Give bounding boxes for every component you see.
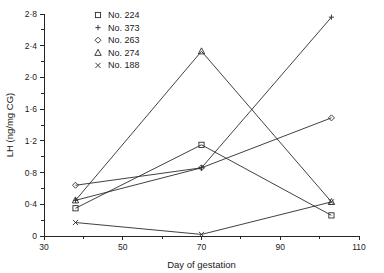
series-no-263 <box>73 115 335 188</box>
legend-marker <box>95 63 100 68</box>
legend-marker <box>95 49 101 55</box>
legend-item-no-263: No. 263 <box>95 35 140 45</box>
y-axis-tick-label: 2·4 <box>25 41 38 51</box>
y-axis-tick-label: 0 <box>32 231 37 241</box>
legend-item-no-274: No. 274 <box>95 48 140 58</box>
legend-item-no-373: No. 373 <box>95 23 139 33</box>
series-polyline <box>76 118 332 185</box>
x-axis-tick-label: 70 <box>197 242 207 252</box>
legend-item-no-188: No. 188 <box>95 60 139 70</box>
legend-label: No. 188 <box>108 60 140 70</box>
x-axis-tick-label: 30 <box>39 242 49 252</box>
x-axis-title: Day of gestation <box>167 259 236 270</box>
y-axis-tick-label: 1·6 <box>25 104 38 114</box>
x-axis-tick-label: 110 <box>352 242 366 252</box>
marker-triangle <box>95 49 101 55</box>
legend-marker <box>95 37 101 43</box>
legend-marker <box>95 12 100 17</box>
series-polyline <box>76 202 332 235</box>
x-axis: 30507090110 <box>39 236 366 252</box>
y-axis-tick-label: 2·8 <box>25 9 38 19</box>
legend-label: No. 373 <box>108 23 140 33</box>
x-axis-tick-label: 90 <box>276 242 286 252</box>
x-axis-tick-label: 50 <box>118 242 128 252</box>
marker-diamond <box>95 37 101 43</box>
y-axis-tick-label: 1·2 <box>25 136 38 146</box>
legend-label: No. 263 <box>108 35 140 45</box>
series-polyline <box>76 51 332 202</box>
y-axis-tick-label: 0·8 <box>25 168 38 178</box>
legend-item-no-224: No. 224 <box>95 10 139 20</box>
y-axis: 00·40·81·21·62·02·42·8 <box>25 9 44 241</box>
y-axis-tick-label: 2·0 <box>25 72 38 82</box>
lh-gestation-line-chart: 00·40·81·21·62·02·42·8 30507090110 No. 2… <box>0 0 384 273</box>
y-axis-tick-label: 0·4 <box>25 199 38 209</box>
series-no-274 <box>72 48 334 205</box>
legend-marker <box>95 25 100 30</box>
series-no-188 <box>73 199 334 237</box>
chart-canvas: 00·40·81·21·62·02·42·8 30507090110 No. 2… <box>0 0 384 273</box>
chart-legend: No. 224No. 373No. 263No. 274No. 188 <box>95 10 140 70</box>
legend-label: No. 224 <box>108 10 140 20</box>
legend-label: No. 274 <box>108 48 140 58</box>
y-axis-title: LH (ng/mg CG) <box>4 93 15 157</box>
marker-square <box>95 12 100 17</box>
